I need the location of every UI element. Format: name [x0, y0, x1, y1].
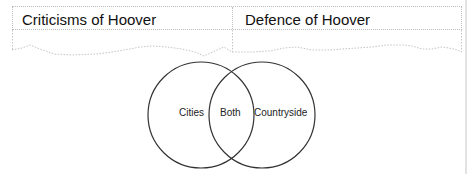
column-criticisms: Criticisms of Hoover — [13, 7, 233, 31]
column-defence: Defence of Hoover — [233, 7, 463, 31]
column-header-defence: Defence of Hoover — [245, 11, 370, 28]
venn-label-cities: Cities — [179, 107, 204, 118]
venn-label-both: Both — [220, 107, 241, 118]
scrollbar-track[interactable] — [465, 0, 467, 174]
column-header-criticisms: Criticisms of Hoover — [22, 11, 156, 28]
venn-diagram: Cities Both Countryside — [145, 60, 345, 170]
venn-circles — [145, 60, 345, 170]
torn-edge-cells — [12, 30, 462, 58]
comparison-table: Criticisms of Hoover Defence of Hoover — [12, 6, 462, 54]
table-header-row: Criticisms of Hoover Defence of Hoover — [12, 6, 462, 30]
venn-label-countryside: Countryside — [254, 107, 307, 118]
